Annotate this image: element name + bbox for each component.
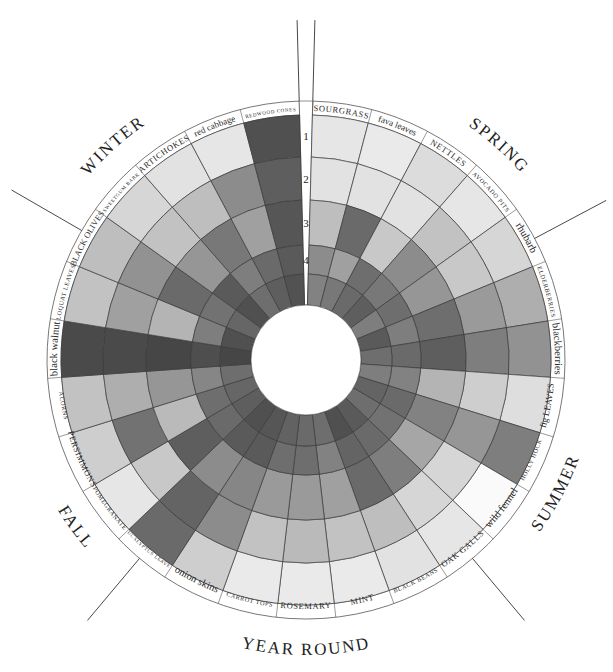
ring-number: 3 — [303, 217, 309, 229]
season-label-year-round: YEAR ROUND — [240, 633, 372, 659]
wheel-cell — [103, 328, 148, 375]
plant-label: ROSEMARY — [280, 600, 332, 611]
ring-number: 4 — [303, 254, 309, 266]
wheel-cell — [391, 342, 421, 368]
wheel-cell — [283, 519, 330, 563]
wheel-cell — [464, 328, 509, 375]
wheel-cell — [61, 321, 106, 377]
wheel-cell — [244, 115, 301, 164]
wheel-cell — [288, 474, 325, 520]
center-hole — [251, 305, 361, 415]
wheel-cell — [278, 562, 334, 605]
season-label-fall: FALL — [54, 502, 98, 552]
ring-number: 1 — [303, 130, 309, 142]
wheel-cell — [506, 321, 551, 377]
wheel-cell — [293, 445, 319, 475]
dye-plant-wheel-chart: SOURGRASSfava leavesNETTLESAVOCADO PITSr… — [0, 0, 613, 672]
ring-number: 2 — [303, 173, 309, 185]
